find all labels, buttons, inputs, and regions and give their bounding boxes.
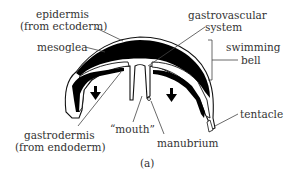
label-mesoglea: mesoglea	[37, 41, 87, 53]
label-manubrium: manubrium	[157, 137, 219, 149]
label-gastrodermis: gastrodermis	[24, 129, 95, 141]
label-epidermis-origin: (from ectoderm)	[20, 20, 107, 32]
medusa-body	[65, 37, 215, 132]
label-gastrodermis-origin: (from endoderm)	[15, 141, 106, 153]
label-mouth: “mouth”	[110, 123, 155, 135]
label-gastrovascular: gastrovascular	[188, 9, 268, 21]
leader-mouth	[133, 96, 142, 122]
manubrium-tip	[148, 98, 151, 101]
label-gastrovascular-system: system	[205, 21, 242, 33]
leader-tentacle	[215, 114, 238, 126]
label-tentacle: tentacle	[240, 108, 283, 120]
down-arrow-icon	[166, 88, 177, 102]
label-swimming: swimming	[226, 41, 281, 53]
panel-label: (a)	[140, 157, 154, 169]
label-bell: bell	[241, 54, 261, 66]
medusa-diagram: epidermis (from ectoderm) mesoglea gastr…	[0, 0, 291, 181]
down-arrow-icon	[90, 86, 101, 100]
label-epidermis: epidermis	[36, 8, 89, 20]
